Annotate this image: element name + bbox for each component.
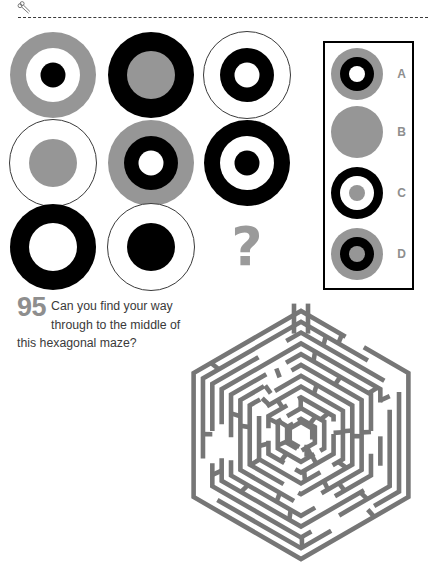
- hexagonal-maze: [174, 300, 428, 562]
- matrix-cell-3: [204, 32, 290, 118]
- option-art-c: [331, 167, 383, 219]
- ring-middle: [29, 139, 77, 187]
- answer-option-label: A: [397, 67, 406, 81]
- scissors-icon: [16, 1, 34, 18]
- matrix-cell-5: [108, 120, 194, 206]
- matrix-cell-9: ?: [204, 204, 290, 290]
- answer-option-label: C: [397, 186, 406, 200]
- option-art-d: [331, 228, 383, 280]
- matrix-cell-7: [10, 204, 96, 290]
- ring-inner: [349, 246, 365, 262]
- answer-option-label: B: [397, 125, 406, 139]
- option-art-b: [331, 106, 383, 158]
- answer-option-c[interactable]: C: [325, 164, 412, 222]
- ring-inner: [139, 151, 164, 176]
- ring-inner: [235, 151, 260, 176]
- dashed-cut-line: [18, 17, 428, 18]
- answer-option-b[interactable]: B: [325, 103, 412, 161]
- maze-svg: [174, 300, 428, 562]
- matrix-cell-1: [10, 32, 96, 118]
- question-number: 95: [17, 296, 46, 318]
- matrix-cell-2: [108, 32, 194, 118]
- ring-inner: [41, 63, 66, 88]
- missing-cell-marker: ?: [231, 220, 262, 274]
- option-art-a: [331, 48, 383, 100]
- ring-inner: [235, 63, 260, 88]
- answer-options-box: ABCD: [323, 41, 414, 290]
- answer-option-label: D: [397, 247, 406, 261]
- answer-option-d[interactable]: D: [325, 225, 412, 283]
- ring-inner: [349, 66, 365, 82]
- ring-outer: [331, 106, 383, 158]
- ring-middle: [29, 223, 77, 271]
- matrix-cell-6: [204, 120, 290, 206]
- matrix-cell-8: [108, 204, 194, 290]
- ring-middle: [127, 51, 175, 99]
- ring-inner: [349, 185, 365, 201]
- circle-matrix-puzzle: ?: [10, 32, 300, 290]
- ring-middle: [127, 223, 175, 271]
- matrix-cell-4: [10, 120, 96, 206]
- answer-option-a[interactable]: A: [325, 45, 412, 103]
